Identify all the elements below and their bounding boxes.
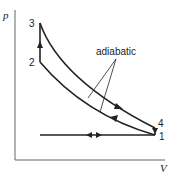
adiabatic-compression [40, 62, 155, 135]
point-label-4: 4 [158, 118, 164, 129]
arrow-left-icon [86, 132, 92, 138]
arrow-expansion-icon [114, 103, 123, 109]
adiabatic-expansion [40, 23, 155, 128]
leader-line-upper [88, 59, 116, 98]
arrow-up-icon [37, 41, 43, 48]
y-axis-label: p [2, 9, 9, 21]
x-axis-label: V [160, 162, 168, 174]
arrow-right-icon [96, 132, 102, 138]
point-label-2: 2 [29, 57, 35, 68]
point-label-1: 1 [159, 131, 165, 142]
point-label-3: 3 [29, 18, 35, 29]
pv-diagram: p V 3 2 4 1 adiabatic [0, 0, 169, 174]
adiabatic-label: adiabatic [96, 46, 136, 57]
